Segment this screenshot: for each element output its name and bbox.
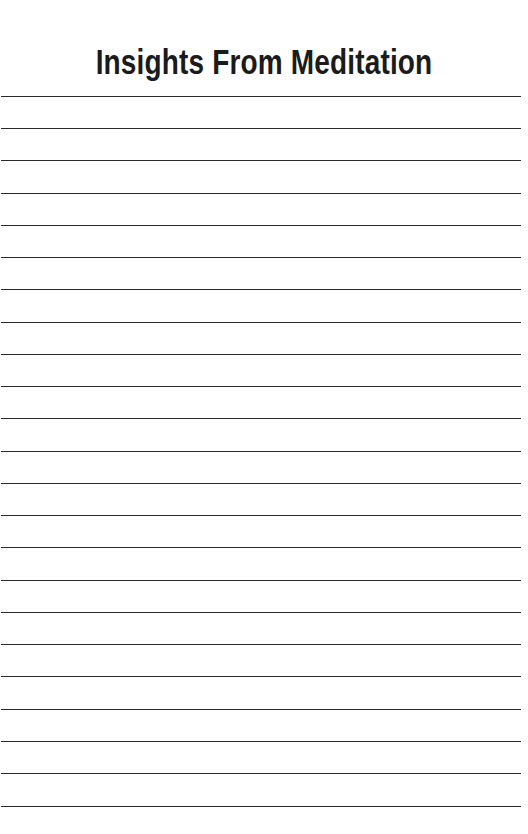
- ruled-line: [1, 257, 521, 258]
- ruled-line: [1, 612, 521, 613]
- ruled-lines-area: [0, 0, 528, 834]
- notepad-page: Insights From Meditation: [0, 0, 528, 834]
- ruled-line: [1, 193, 521, 194]
- ruled-line: [1, 451, 521, 452]
- ruled-line: [1, 160, 521, 161]
- ruled-line: [1, 483, 521, 484]
- ruled-line: [1, 225, 521, 226]
- ruled-line: [1, 580, 521, 581]
- ruled-line: [1, 676, 521, 677]
- ruled-line: [1, 515, 521, 516]
- ruled-line: [1, 96, 521, 97]
- ruled-line: [1, 418, 521, 419]
- ruled-line: [1, 322, 521, 323]
- ruled-line: [1, 773, 521, 774]
- ruled-line: [1, 806, 521, 807]
- ruled-line: [1, 644, 521, 645]
- ruled-line: [1, 386, 521, 387]
- ruled-line: [1, 741, 521, 742]
- ruled-line: [1, 547, 521, 548]
- ruled-line: [1, 128, 521, 129]
- ruled-line: [1, 354, 521, 355]
- ruled-line: [1, 289, 521, 290]
- ruled-line: [1, 709, 521, 710]
